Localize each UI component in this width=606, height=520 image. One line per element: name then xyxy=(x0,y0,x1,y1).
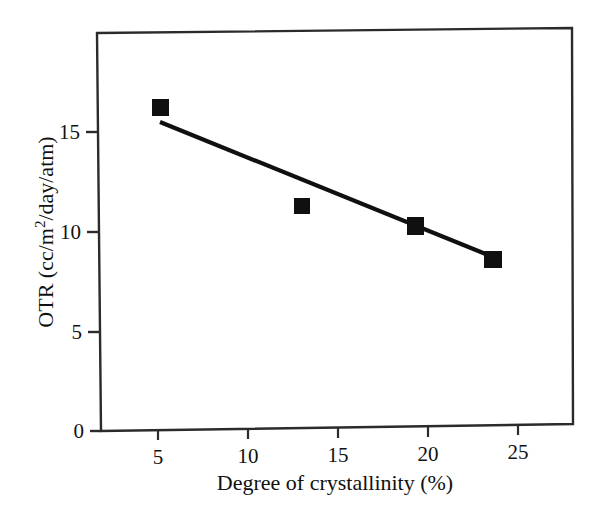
series-trendline xyxy=(160,122,493,257)
data-point-marker xyxy=(152,99,169,116)
x-tick-label-25: 25 xyxy=(508,442,529,463)
series-data-markers xyxy=(152,99,502,268)
x-tick-label-10: 10 xyxy=(238,446,259,467)
data-point-marker xyxy=(484,251,502,268)
x-tick-label-20: 20 xyxy=(418,444,439,465)
y-axis-title-after: /day/atm) xyxy=(33,136,58,220)
y-tick-label-5: 5 xyxy=(72,322,83,343)
y-tick-label-0: 0 xyxy=(74,421,85,442)
x-tick-label-5: 5 xyxy=(153,447,164,468)
y-axis-title-before: OTR (cc/m xyxy=(33,228,58,328)
trendline-segment xyxy=(160,122,493,257)
x-axis-title: Degree of crystallinity (%) xyxy=(217,472,453,494)
chart-figure: 15 10 5 0 5 10 15 20 25 Degree of crysta… xyxy=(0,0,606,520)
axis-frame xyxy=(97,28,573,431)
plot-box-border xyxy=(97,28,573,431)
x-tick-label-15: 15 xyxy=(328,445,349,466)
y-axis-title-superscript: 2 xyxy=(32,221,48,228)
data-point-marker xyxy=(407,217,424,235)
data-point-marker xyxy=(294,198,310,214)
y-tick-label-15: 15 xyxy=(59,122,80,143)
y-axis-title: OTR (cc/m2/day/atm) xyxy=(35,136,57,327)
y-tick-label-10: 10 xyxy=(60,222,81,243)
